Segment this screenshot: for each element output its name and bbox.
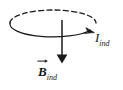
loop-back-arc-dashed [10, 10, 96, 23]
figure-canvas: Iind B ind [0, 0, 123, 90]
field-arrowhead-icon [57, 55, 68, 64]
bfield-subscript: ind [47, 73, 57, 82]
bfield-label: B ind [38, 63, 57, 82]
bfield-symbol: B [38, 64, 47, 79]
loop-front-arc-solid [10, 23, 91, 37]
current-label: Iind [95, 29, 110, 48]
bfield-symbol-group: B [38, 63, 47, 79]
vector-overbar-arrow-icon [37, 58, 48, 63]
current-subscript: ind [99, 39, 109, 48]
